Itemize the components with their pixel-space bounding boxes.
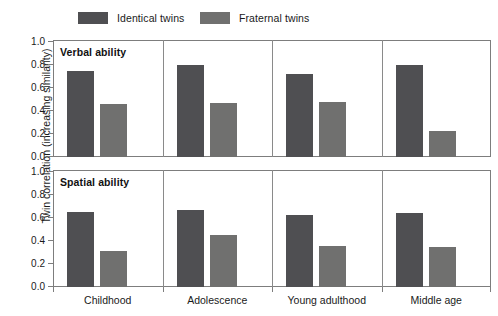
bar-fraternal <box>429 131 456 157</box>
bar-fraternal <box>100 251 127 287</box>
bar-identical <box>67 71 94 157</box>
bar-identical <box>67 212 94 287</box>
x-category-label: Adolescence <box>187 294 247 306</box>
x-tick <box>53 287 54 292</box>
bar-fraternal <box>319 246 346 287</box>
group-separator <box>272 40 273 157</box>
panel-spatial-ability: Spatial ability 0.00.20.40.60.81.0 <box>53 170 491 287</box>
y-tick-label: 0.4 <box>31 105 45 116</box>
bar-fraternal <box>319 102 346 157</box>
legend-swatch-identical <box>78 12 108 24</box>
panel-verbal-ability: Verbal ability 0.00.20.40.60.81.0 <box>53 40 491 157</box>
y-tick-label: 0.0 <box>31 151 45 162</box>
y-tick-label: 1.0 <box>31 36 45 47</box>
panel-title-verbal: Verbal ability <box>60 46 126 58</box>
bar-identical <box>177 210 204 287</box>
x-axis-category-labels: ChildhoodAdolescenceYoung adulthoodMiddl… <box>53 294 491 310</box>
bar-group <box>163 170 273 287</box>
bar-fraternal <box>100 104 127 157</box>
group-separator <box>382 170 383 287</box>
y-tick-label: 0.8 <box>31 59 45 70</box>
x-tick <box>382 287 383 292</box>
legend-label-fraternal: Fraternal twins <box>239 12 309 24</box>
bar-identical <box>286 74 313 157</box>
bar-group <box>382 170 492 287</box>
bar-group <box>272 40 382 157</box>
bar-group <box>163 40 273 157</box>
legend-item-fraternal: Fraternal twins <box>200 10 309 26</box>
panel-title-spatial: Spatial ability <box>60 176 129 188</box>
legend-item-identical: Identical twins <box>78 10 184 26</box>
x-tick <box>163 287 164 292</box>
y-tick-label: 0.6 <box>31 212 45 223</box>
bar-identical <box>177 65 204 157</box>
y-tick-label: 0.4 <box>31 235 45 246</box>
group-separator <box>163 40 164 157</box>
y-tick-label: 0.2 <box>31 258 45 269</box>
group-separator <box>382 40 383 157</box>
legend-label-identical: Identical twins <box>117 12 184 24</box>
x-tick <box>272 287 273 292</box>
x-category-label: Young adulthood <box>288 294 366 306</box>
twin-correlation-chart: Identical twins Fraternal twins Twin cor… <box>0 0 498 316</box>
x-tick <box>490 287 491 292</box>
chart-legend: Identical twins Fraternal twins <box>0 9 498 29</box>
bar-fraternal <box>429 247 456 287</box>
bar-identical <box>286 215 313 287</box>
group-separator <box>272 170 273 287</box>
bar-group <box>382 40 492 157</box>
bar-group <box>272 170 382 287</box>
x-category-label: Childhood <box>84 294 131 306</box>
y-tick-label: 1.0 <box>31 166 45 177</box>
legend-swatch-fraternal <box>200 12 230 24</box>
y-tick-label: 0.8 <box>31 189 45 200</box>
bar-identical <box>396 65 423 157</box>
x-category-label: Middle age <box>411 294 462 306</box>
y-tick-label: 0.6 <box>31 82 45 93</box>
group-separator <box>163 170 164 287</box>
bar-fraternal <box>210 103 237 157</box>
bar-identical <box>396 213 423 287</box>
y-tick-label: 0.0 <box>31 281 45 292</box>
bar-fraternal <box>210 235 237 287</box>
y-tick-label: 0.2 <box>31 128 45 139</box>
